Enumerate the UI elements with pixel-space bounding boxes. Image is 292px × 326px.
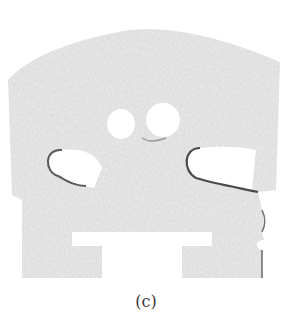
violin-bridge-photo	[0, 0, 292, 290]
figure-caption: (c)	[0, 292, 292, 311]
